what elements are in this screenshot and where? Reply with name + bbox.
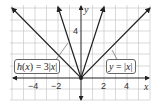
h-end: |	[55, 61, 57, 72]
y-end: |	[131, 61, 133, 72]
y-function-label: y = |x|	[106, 59, 136, 74]
h-function-label: h(x) = 3|x|	[14, 59, 60, 74]
y-axis-label: y	[83, 4, 89, 15]
h-name: h	[17, 61, 22, 72]
x-tick-4: 4	[124, 81, 129, 91]
y-tick-4: 4	[73, 26, 78, 36]
graph: −4 −2 2 4 4 x y	[0, 0, 157, 107]
h-arg: x	[25, 61, 29, 72]
y-eq: = |	[113, 61, 126, 72]
x-axis-label: x	[143, 81, 149, 92]
x-tick-2: 2	[101, 81, 106, 91]
h-eq: = 3|	[33, 61, 51, 72]
x-tick-neg4: −4	[28, 81, 38, 91]
x-tick-neg2: −2	[51, 81, 61, 91]
vertex-point	[79, 76, 83, 80]
